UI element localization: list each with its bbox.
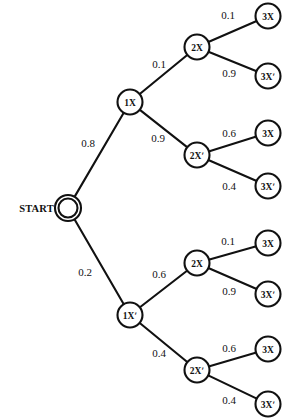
- edge-probability-label: 0.6: [152, 268, 166, 280]
- node-label: 3Xʹ: [261, 290, 276, 300]
- node-label: 2Xʹ: [190, 366, 205, 376]
- decision-node[interactable]: 2X: [185, 251, 210, 276]
- node-label: 2X: [191, 259, 203, 269]
- leaf-node[interactable]: 3Xʹ: [256, 174, 281, 199]
- decision-node[interactable]: 1X: [118, 90, 143, 115]
- node-label: 3Xʹ: [261, 182, 276, 192]
- tree-edge: [209, 21, 256, 42]
- tree-edge: [210, 247, 256, 260]
- start-node[interactable]: [55, 195, 81, 221]
- edge-probability-label: 0.1: [221, 9, 235, 21]
- probability-tree-diagram: 1X1Xʹ2X2Xʹ2X2Xʹ3X3Xʹ3X3Xʹ3X3Xʹ3X3Xʹ 0.80…: [0, 0, 290, 420]
- edge-probability-label: 0.1: [221, 235, 235, 247]
- decision-node[interactable]: 2X: [185, 35, 210, 60]
- tree-edge: [75, 220, 124, 304]
- node-label: 3Xʹ: [261, 400, 276, 410]
- node-label: 3X: [262, 12, 274, 22]
- tree-edge: [209, 160, 256, 181]
- tree-canvas: 1X1Xʹ2X2Xʹ2X2Xʹ3X3Xʹ3X3Xʹ3X3Xʹ3X3Xʹ 0.80…: [0, 0, 290, 420]
- node-circle: [59, 199, 78, 218]
- node-label: 3X: [262, 345, 274, 355]
- edge-probability-label: 0.1: [152, 58, 166, 70]
- edge-probability-label: 0.9: [222, 67, 236, 79]
- edge-probability-label: 0.9: [222, 285, 236, 297]
- leaf-node[interactable]: 3Xʹ: [256, 282, 281, 307]
- edge-probability-label: 0.8: [81, 137, 95, 149]
- decision-node[interactable]: 2Xʹ: [185, 143, 210, 168]
- node-label: 1Xʹ: [123, 311, 138, 321]
- node-label: 3X: [262, 239, 274, 249]
- leaf-node[interactable]: 3X: [256, 337, 281, 362]
- edge-probability-label: 0.4: [222, 180, 236, 192]
- node-label: 3Xʹ: [261, 72, 276, 82]
- edge-probability-label: 0.4: [222, 394, 236, 406]
- decision-node[interactable]: 2Xʹ: [185, 358, 210, 383]
- edge-labels-layer: 0.80.20.10.90.10.90.60.40.60.40.10.90.60…: [78, 9, 236, 406]
- edge-probability-label: 0.9: [151, 132, 165, 144]
- leaf-node[interactable]: 3X: [256, 121, 281, 146]
- start-label: START: [19, 203, 54, 214]
- leaf-node[interactable]: 3Xʹ: [256, 392, 281, 417]
- edge-probability-label: 0.6: [222, 342, 236, 354]
- node-label: 1X: [124, 98, 136, 108]
- leaf-node[interactable]: 3Xʹ: [256, 64, 281, 89]
- tree-edge: [75, 113, 124, 196]
- node-label: 3X: [262, 129, 274, 139]
- edge-probability-label: 0.2: [78, 266, 92, 278]
- decision-node[interactable]: 1Xʹ: [118, 303, 143, 328]
- edge-probability-label: 0.4: [152, 347, 166, 359]
- leaf-node[interactable]: 3X: [256, 231, 281, 256]
- node-label: 2Xʹ: [190, 151, 205, 161]
- edge-probability-label: 0.6: [222, 127, 236, 139]
- leaf-node[interactable]: 3X: [256, 4, 281, 29]
- tree-edge: [209, 353, 255, 367]
- node-label: 2X: [191, 43, 203, 53]
- start-label-layer: START: [19, 203, 54, 214]
